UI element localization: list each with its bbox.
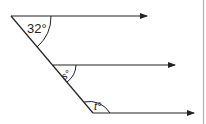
angle-diagram: 32° s° t° xyxy=(0,0,206,124)
angle-label-32: 32° xyxy=(27,21,47,36)
angle-label-s: s° xyxy=(59,68,73,82)
angle-label-t: t° xyxy=(94,100,102,112)
